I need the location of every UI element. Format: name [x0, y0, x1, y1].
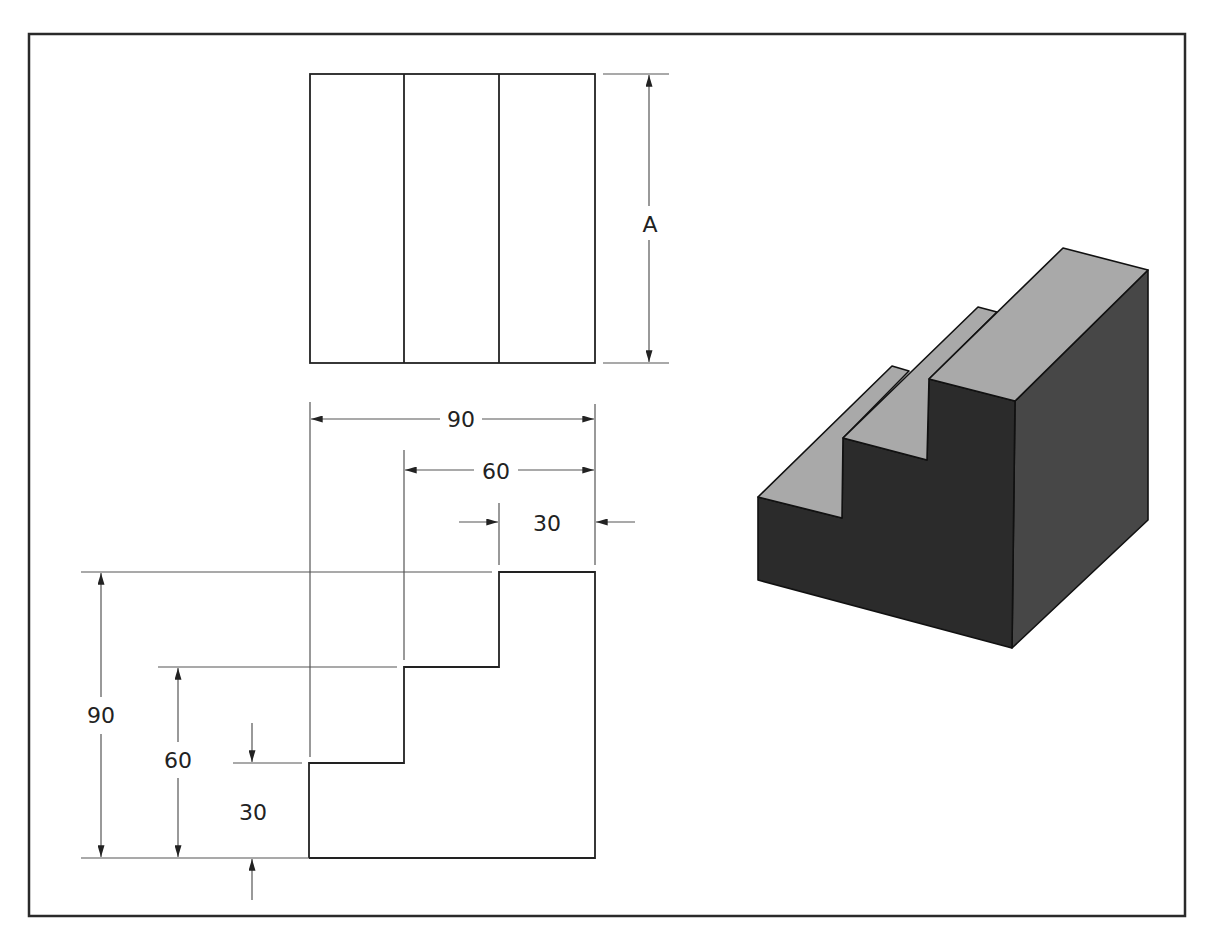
dimension-label-90-horizontal: 90 [447, 407, 475, 432]
dimension-label-a: A [642, 212, 657, 237]
top-view-outline [310, 74, 595, 363]
isometric-view [758, 248, 1148, 648]
dimension-label-30-horizontal: 30 [533, 511, 561, 536]
front-view-profile [309, 572, 595, 858]
dimension-label-30-vertical: 30 [239, 800, 267, 825]
dimension-label-60-vertical: 60 [164, 748, 192, 773]
dimension-label-60-horizontal: 60 [482, 459, 510, 484]
top-view: A [310, 74, 669, 363]
front-view: 90 60 30 90 60 30 [81, 402, 635, 900]
dimension-label-90-vertical: 90 [87, 703, 115, 728]
technical-drawing: A 90 60 30 90 60 [0, 0, 1216, 949]
